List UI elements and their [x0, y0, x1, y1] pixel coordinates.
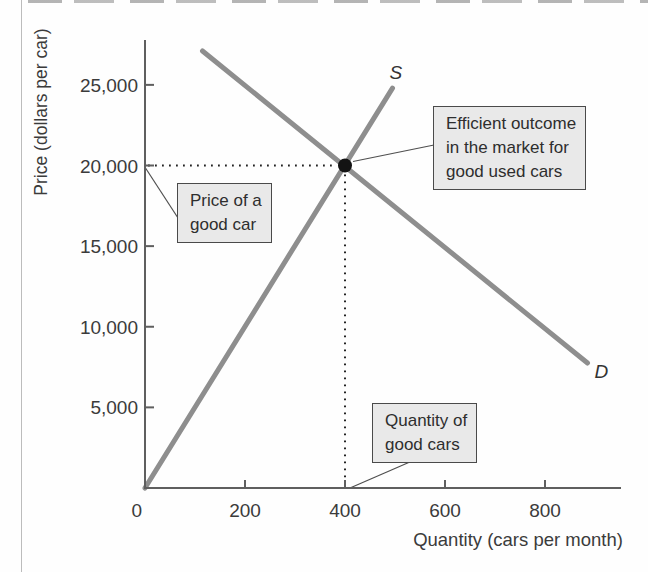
leader-line-quantity-callout: [350, 462, 411, 489]
callout-quantity-of-good-cars: Quantity of good cars: [372, 403, 477, 463]
y-tick-label: 20,000: [80, 156, 138, 177]
callout-efficient-line1: Efficient outcome: [446, 112, 576, 136]
x-tick-label: 600: [429, 500, 461, 521]
supply-curve: [145, 88, 393, 488]
callout-quantity-line2: good cars: [385, 433, 467, 457]
leader-line-price-callout: [146, 168, 179, 218]
supply-curve-label: S: [390, 62, 403, 83]
equilibrium-point: [338, 159, 352, 173]
callout-efficient-outcome: Efficient outcome in the market for good…: [433, 106, 586, 190]
y-tick-label: 5,000: [90, 397, 138, 418]
callout-efficient-line2: in the market for: [446, 136, 576, 160]
callout-price-line2: good car: [190, 213, 262, 237]
x-tick-label: 400: [329, 500, 361, 521]
callout-price-of-good-car: Price of a good car: [177, 183, 272, 243]
callout-price-line1: Price of a: [190, 189, 262, 213]
y-axis-title: Price (dollars per car): [31, 28, 51, 195]
x-axis-title: Quantity (cars per month): [413, 529, 623, 550]
callout-efficient-line3: good used cars: [446, 160, 576, 184]
leader-line-efficient-callout: [353, 145, 434, 162]
chart-canvas: SD5,00010,00015,00020,00025,000020040060…: [0, 0, 648, 572]
x-tick-label: 0: [131, 500, 142, 521]
y-tick-label: 25,000: [80, 75, 138, 96]
x-tick-label: 800: [529, 500, 561, 521]
demand-curve-label: D: [595, 361, 609, 382]
x-tick-label: 200: [229, 500, 261, 521]
callout-quantity-line1: Quantity of: [385, 409, 467, 433]
y-tick-label: 15,000: [80, 236, 138, 257]
y-tick-label: 10,000: [80, 317, 138, 338]
